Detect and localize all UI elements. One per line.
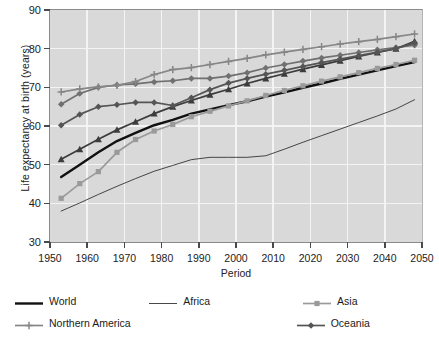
data-point-marker [338,74,343,79]
data-point-marker [77,181,82,186]
x-axis-tick-label: 2020 [299,252,322,264]
data-point-marker [225,80,232,87]
data-point-marker [189,114,194,119]
x-axis-tick [235,242,237,248]
data-point-marker [76,85,83,92]
data-point-marker [263,93,268,98]
data-point-marker [411,30,418,37]
legend-label-line1: Africa [183,296,210,308]
y-axis-tick-label: 80 [29,43,41,55]
data-point-marker [95,136,102,142]
x-axis-tick [161,242,163,248]
x-axis-tick-label: 2050 [410,252,433,264]
data-point-marker [169,66,176,73]
legend-label-line1: World [49,296,76,308]
series-europe [58,42,418,108]
data-point-marker [262,51,269,58]
data-point-marker [59,196,64,201]
data-point-marker [225,58,232,65]
legend-item-asia[interactable]: Asia [302,296,357,310]
data-point-marker [282,88,287,93]
data-point-marker [263,71,270,78]
x-axis-tick-label: 1990 [187,252,210,264]
data-point-marker [188,75,195,82]
data-point-marker [206,61,213,68]
data-point-marker [151,79,158,86]
x-axis-tick [384,242,386,248]
legend-swatch-icon [302,297,332,310]
y-axis-tick-label: 40 [29,197,41,209]
x-axis-tick-label: 2040 [373,252,396,264]
x-axis-tick [272,242,274,248]
legend-row: Northern AmericaOceania [14,318,439,340]
data-point-marker [355,38,362,45]
x-axis-tick [198,242,200,248]
legend-item-northern-america[interactable]: Northern America [14,318,131,332]
data-point-marker [375,66,380,71]
chart-legend: WorldAfricaAsiaEuropeLatin Americaand th… [14,296,439,340]
x-axis-tick-label: 2030 [336,252,359,264]
x-axis-tick [310,242,312,248]
legend-label: Oceania [331,318,370,330]
data-point-marker [244,69,251,76]
x-axis-tick-label: 2000 [224,252,247,264]
x-axis-title: Period [50,267,422,279]
legend-swatch-icon [14,319,44,332]
chart-figure: Life expectancy at birth (years) 3040506… [0,0,439,347]
data-point-marker [114,101,121,108]
series-world [61,62,414,177]
data-point-marker [152,128,157,133]
data-point-marker [337,40,344,47]
legend-label-line1: Northern America [49,318,131,330]
plot-area: 3040506070809019501960197019801990200020… [50,10,422,242]
data-point-marker [58,88,65,95]
data-point-marker [374,36,381,43]
legend-item-oceania[interactable]: Oceania [296,318,370,332]
data-point-marker [281,49,288,56]
y-axis-tick-label: 70 [29,81,41,93]
x-axis-tick [421,242,423,248]
series-oceania [58,40,418,129]
legend-item-world[interactable]: World [14,296,76,310]
data-point-marker [170,122,175,127]
legend-label-line1: Asia [337,296,357,308]
legend-label: World [49,296,76,308]
legend-label: Northern America [49,318,131,330]
data-point-marker [132,99,139,106]
data-point-marker [299,46,306,53]
data-point-marker [207,75,214,82]
data-point-marker [393,62,398,67]
x-axis-tick-label: 1970 [113,252,136,264]
data-point-marker [95,83,102,90]
data-point-marker [245,98,250,103]
y-axis-tick-label: 60 [29,120,41,132]
data-point-marker [225,73,232,80]
data-point-marker [244,55,251,62]
data-point-marker [170,78,177,85]
legend-label: Asia [337,296,357,308]
data-point-marker [188,64,195,71]
data-point-marker [207,109,212,114]
data-point-marker [263,65,270,72]
x-axis-tick-label: 2010 [262,252,285,264]
legend-item-africa[interactable]: Africa [148,296,210,310]
legend-swatch-icon [14,297,44,310]
data-point-marker [281,61,288,68]
series-asia [59,58,418,201]
data-point-marker [318,43,325,50]
x-axis-tick-label: 1960 [76,252,99,264]
data-point-marker [96,169,101,174]
x-axis-tick-label: 1980 [150,252,173,264]
data-point-marker [76,146,83,152]
data-point-marker [113,82,120,89]
data-point-marker [95,103,102,110]
data-point-marker [412,58,417,63]
legend-label-line1: Oceania [331,318,370,330]
x-axis-tick [124,242,126,248]
data-point-marker [207,86,214,93]
series-line [61,34,414,92]
data-point-marker [151,71,158,78]
data-point-marker [356,70,361,75]
x-axis-tick [86,242,88,248]
data-point-marker [226,103,231,108]
